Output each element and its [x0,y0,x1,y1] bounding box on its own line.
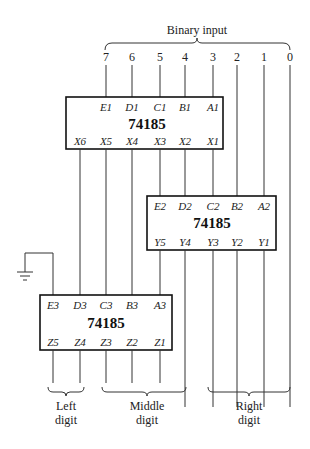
left-digit-label: Left [56,399,77,413]
input-bit-0: 0 [287,50,293,64]
middle-digit-label-2: digit [136,413,159,427]
svg-text:D3: D3 [72,299,87,311]
ground-icon [17,253,53,295]
svg-text:74185: 74185 [193,215,231,231]
right-digit-label-2: digit [238,413,261,427]
binary-input-label: Binary input [167,23,228,37]
svg-text:A2: A2 [257,200,271,212]
svg-text:B2: B2 [231,200,244,212]
svg-text:Z1: Z1 [154,336,166,348]
left-digit-label-2: digit [55,413,78,427]
svg-text:B1: B1 [179,101,191,113]
input-bit-6: 6 [129,50,135,64]
input-bit-4: 4 [182,50,188,64]
svg-text:Y1: Y1 [258,236,270,248]
svg-text:Y4: Y4 [179,236,191,248]
svg-text:Z4: Z4 [74,336,86,348]
input-bit-7: 7 [103,50,109,64]
svg-text:Y5: Y5 [154,236,166,248]
input-bit-3: 3 [210,50,216,64]
input-bit-5: 5 [157,50,163,64]
middle-digit-label: Middle [130,399,165,413]
svg-text:X4: X4 [125,135,139,147]
svg-text:X5: X5 [99,135,113,147]
bcd-converter-diagram: Binary input 7 6 5 4 3 2 1 0 E1 D1 C1 B1… [0,0,310,449]
chip-middle-74185: E2 D2 C2 B2 A2 74185 Y5 Y4 Y3 Y2 Y1 [147,196,276,250]
svg-text:Z5: Z5 [47,336,59,348]
svg-text:X6: X6 [73,135,87,147]
svg-text:A3: A3 [153,299,167,311]
svg-text:D1: D1 [124,101,138,113]
svg-text:E3: E3 [46,299,60,311]
svg-text:74185: 74185 [87,315,125,331]
svg-text:X1: X1 [206,135,219,147]
svg-text:D2: D2 [177,200,192,212]
right-digit-brace [208,387,290,396]
input-bit-1: 1 [261,50,267,64]
svg-text:C2: C2 [207,200,220,212]
middle-digit-brace [102,387,186,396]
svg-text:Y2: Y2 [231,236,243,248]
svg-text:B3: B3 [126,299,139,311]
svg-text:X2: X2 [178,135,192,147]
svg-text:C1: C1 [154,101,167,113]
binary-input-brace [105,38,290,50]
chip-top-74185: E1 D1 C1 B1 A1 74185 X6 X5 X4 X3 X2 X1 [66,97,223,149]
left-digit-brace [48,387,84,396]
svg-text:Y3: Y3 [207,236,219,248]
right-digit-label: Right [236,399,263,413]
svg-text:E1: E1 [99,101,112,113]
chip-bottom-74185: E3 D3 C3 B3 A3 74185 Z5 Z4 Z3 Z2 Z1 [40,295,172,350]
svg-text:Z3: Z3 [100,336,112,348]
svg-text:C3: C3 [100,299,113,311]
svg-text:74185: 74185 [128,116,166,132]
svg-text:E2: E2 [153,200,167,212]
input-bit-2: 2 [234,50,240,64]
svg-text:X3: X3 [153,135,167,147]
svg-text:A1: A1 [206,101,219,113]
svg-text:Z2: Z2 [126,336,138,348]
